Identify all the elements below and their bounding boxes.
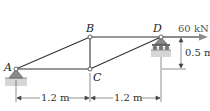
joint-label-d: D [153, 23, 162, 34]
truss-members [16, 37, 161, 69]
load-arrow [161, 34, 208, 41]
member-cd [90, 37, 161, 69]
load-label: 60 kN [178, 24, 209, 34]
dimension-label-vertical: 0.5 m [185, 48, 210, 58]
joint-a [14, 67, 18, 71]
joint-label-c: C [93, 72, 101, 83]
joint-label-b: B [86, 23, 94, 34]
joint-d [159, 35, 163, 39]
dimension-label-cd: 1.2 m [114, 93, 143, 103]
truss-diagram [0, 0, 210, 111]
member-ab [16, 37, 90, 69]
joint-b [88, 35, 92, 39]
joints [14, 35, 163, 71]
dimension-label-ac: 1.2 m [41, 93, 70, 103]
joint-c [88, 67, 92, 71]
joint-label-a: A [4, 62, 12, 73]
